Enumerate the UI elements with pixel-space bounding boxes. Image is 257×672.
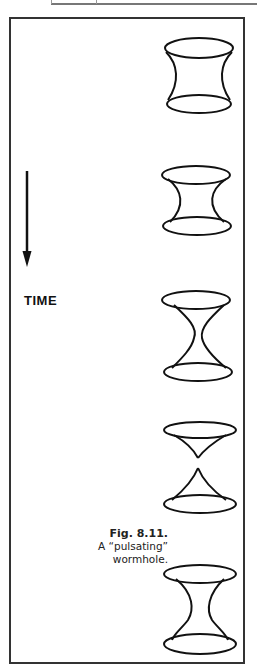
wormhole-frame-5 xyxy=(160,560,240,660)
wormhole-frame-4 xyxy=(160,420,240,520)
caption-line-2: wormhole. xyxy=(90,553,168,566)
time-axis-label: TIME xyxy=(24,293,57,308)
figure-caption: Fig. 8.11. A “pulsating” wormhole. xyxy=(90,527,168,566)
wormhole-frame-2 xyxy=(160,160,240,240)
wormhole-frame-1 xyxy=(160,34,240,114)
caption-line-1: A “pulsating” xyxy=(90,540,168,553)
wormhole-frame-3 xyxy=(160,288,240,384)
time-arrow-icon xyxy=(22,171,32,267)
header-bracket xyxy=(51,0,97,4)
figure-number: Fig. 8.11. xyxy=(90,527,168,540)
